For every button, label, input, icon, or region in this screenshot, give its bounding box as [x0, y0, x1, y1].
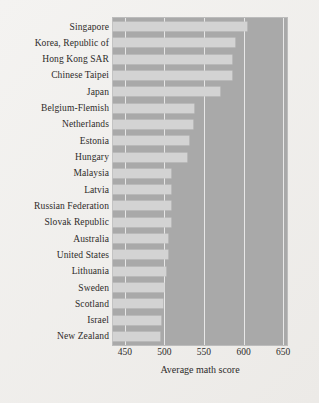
bar[interactable] — [113, 316, 161, 325]
bar-row[interactable] — [113, 183, 287, 196]
plot-area — [113, 18, 287, 345]
bar[interactable] — [113, 332, 160, 341]
y-axis-label: Hungary — [0, 151, 109, 164]
bar-row[interactable] — [113, 118, 287, 131]
page-background: SingaporeKorea, Republic ofHong Kong SAR… — [0, 0, 319, 403]
bar[interactable] — [113, 169, 171, 178]
y-axis-label: Korea, Republic of — [0, 36, 109, 49]
bar[interactable] — [113, 185, 171, 194]
x-tick-label-600: 600 — [236, 347, 250, 357]
bar[interactable] — [113, 22, 247, 31]
bar-row[interactable] — [113, 216, 287, 229]
y-axis-label: New Zealand — [0, 330, 109, 343]
bar[interactable] — [113, 250, 168, 259]
y-axis-category-labels: SingaporeKorea, Republic ofHong Kong SAR… — [0, 18, 109, 345]
bar-row[interactable] — [113, 199, 287, 212]
x-tick-label-650: 650 — [276, 347, 290, 357]
x-tick-label-500: 500 — [157, 347, 171, 357]
y-axis-label: Singapore — [0, 20, 109, 33]
bar-row[interactable] — [113, 85, 287, 98]
bar[interactable] — [113, 299, 163, 308]
y-axis-label: Israel — [0, 314, 109, 327]
bar-row[interactable] — [113, 248, 287, 261]
y-axis-label: United States — [0, 248, 109, 261]
bar[interactable] — [113, 71, 232, 80]
bar-row[interactable] — [113, 134, 287, 147]
y-axis-label: Lithuania — [0, 265, 109, 278]
bar-row[interactable] — [113, 265, 287, 278]
bar[interactable] — [113, 120, 193, 129]
y-axis-label: Chinese Taipei — [0, 69, 109, 82]
bar[interactable] — [113, 283, 164, 292]
x-tick-label-550: 550 — [197, 347, 211, 357]
bar-row[interactable] — [113, 281, 287, 294]
y-axis-label: Scotland — [0, 297, 109, 310]
y-axis-label: Malaysia — [0, 167, 109, 180]
bar-row[interactable] — [113, 20, 287, 33]
bar-row[interactable] — [113, 232, 287, 245]
y-axis-label: Hong Kong SAR — [0, 53, 109, 66]
bar-chart: SingaporeKorea, Republic ofHong Kong SAR… — [0, 0, 319, 403]
bar-row[interactable] — [113, 167, 287, 180]
y-axis-label: Sweden — [0, 281, 109, 294]
bar-row[interactable] — [113, 297, 287, 310]
y-axis-label: Estonia — [0, 134, 109, 147]
bar[interactable] — [113, 218, 171, 227]
bar[interactable] — [113, 267, 166, 276]
bar-row[interactable] — [113, 151, 287, 164]
y-axis-label: Latvia — [0, 183, 109, 196]
y-axis-label: Netherlands — [0, 118, 109, 131]
y-axis-label: Japan — [0, 85, 109, 98]
y-axis-label: Belgium-Flemish — [0, 102, 109, 115]
bar-row[interactable] — [113, 314, 287, 327]
bar-row[interactable] — [113, 69, 287, 82]
bar[interactable] — [113, 136, 189, 145]
bar-row[interactable] — [113, 53, 287, 66]
bar-row[interactable] — [113, 330, 287, 343]
x-axis-title: Average math score — [113, 364, 287, 375]
bar-row[interactable] — [113, 102, 287, 115]
bar[interactable] — [113, 234, 168, 243]
bar[interactable] — [113, 104, 194, 113]
bar[interactable] — [113, 153, 187, 162]
bar[interactable] — [113, 38, 235, 47]
bar[interactable] — [113, 87, 220, 96]
y-axis-label: Russian Federation — [0, 199, 109, 212]
x-axis-tick-labels: 450500550600650 — [113, 347, 287, 363]
bar[interactable] — [113, 201, 171, 210]
bar-row[interactable] — [113, 36, 287, 49]
x-tick-label-450: 450 — [118, 347, 132, 357]
bar-rows — [113, 18, 287, 345]
y-axis-label: Australia — [0, 232, 109, 245]
y-axis-label: Slovak Republic — [0, 216, 109, 229]
bar[interactable] — [113, 55, 232, 64]
